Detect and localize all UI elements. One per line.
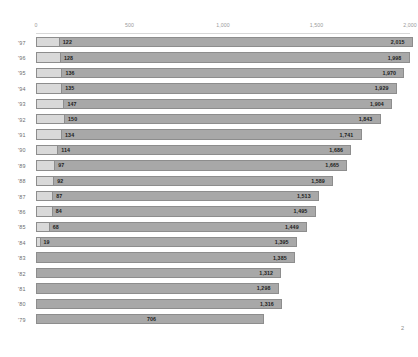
y-axis-category-label: '94: [18, 86, 26, 92]
bar-segment-light: [37, 207, 53, 215]
bar[interactable]: 921,589: [36, 176, 333, 186]
bar-total-value-label: 1,513: [297, 193, 311, 199]
chart-row: '941351,929: [0, 81, 418, 96]
y-axis-category-label: '90: [18, 147, 26, 153]
chart-row: '811,298: [0, 281, 418, 296]
bar-total-value-label: 1,449: [285, 224, 299, 230]
chart-row: '821,312: [0, 266, 418, 281]
bar-segment-light: [37, 177, 54, 185]
x-axis-tick-label: 0: [34, 22, 37, 28]
bar-total-value-label: 1,395: [275, 239, 289, 245]
bar[interactable]: 191,395: [36, 237, 297, 247]
bar-segment-value-label: 92: [57, 178, 63, 184]
y-axis-category-label: '83: [18, 255, 26, 261]
bar-inner-value-label: 706: [147, 316, 156, 322]
bar-total-value-label: 1,495: [294, 208, 308, 214]
bar[interactable]: 1141,686: [36, 145, 351, 155]
bar-segment-light: [37, 130, 62, 138]
bar-track: 971,665: [36, 160, 410, 170]
bar-total-value-label: 1,970: [382, 70, 396, 76]
bar-total-value-label: 1,298: [257, 285, 271, 291]
bar-segment-value-label: 97: [58, 162, 64, 168]
bar[interactable]: 706: [36, 314, 264, 324]
bar-chart: 05001,0001,5002,000 '971222,015'961281,9…: [0, 0, 418, 357]
x-axis-tick-label: 2,000: [403, 22, 417, 28]
y-axis-category-label: '88: [18, 178, 26, 184]
bar-track: 1281,998: [36, 52, 410, 62]
bar-total-value-label: 1,904: [370, 101, 384, 107]
bar[interactable]: 971,665: [36, 160, 347, 170]
bar-track: 706: [36, 314, 410, 324]
bar[interactable]: 1,385: [36, 252, 295, 262]
y-axis-category-label: '84: [18, 240, 26, 246]
chart-row: '86841,495: [0, 204, 418, 219]
y-axis-category-label: '79: [18, 317, 26, 323]
bar-total-value-label: 1,741: [340, 132, 354, 138]
bar-segment-value-label: 134: [65, 132, 74, 138]
bar-total-value-label: 1,998: [388, 55, 402, 61]
y-axis-category-label: '82: [18, 271, 26, 277]
bar[interactable]: 841,495: [36, 206, 316, 216]
bar-track: 871,513: [36, 191, 410, 201]
bar[interactable]: 1501,843: [36, 114, 381, 124]
bar-segment-light: [37, 192, 53, 200]
chart-row: '901141,686: [0, 143, 418, 158]
y-axis-category-label: '80: [18, 301, 26, 307]
bar[interactable]: 1,316: [36, 299, 282, 309]
bar[interactable]: 1361,970: [36, 68, 404, 78]
bar-total-value-label: 2,015: [391, 39, 405, 45]
chart-row: '88921,589: [0, 174, 418, 189]
bar-track: 1222,015: [36, 37, 410, 47]
bar-total-value-label: 1,665: [325, 162, 339, 168]
y-axis-category-label: '91: [18, 132, 26, 138]
y-axis-category-label: '85: [18, 224, 26, 230]
chart-row: '971222,015: [0, 35, 418, 50]
y-axis-category-label: '96: [18, 55, 26, 61]
bar[interactable]: 1341,741: [36, 129, 362, 139]
bar-track: 921,589: [36, 176, 410, 186]
chart-row: '79706: [0, 312, 418, 327]
bar[interactable]: 1,312: [36, 268, 281, 278]
bar-total-value-label: 1,589: [311, 178, 325, 184]
chart-row: '951361,970: [0, 66, 418, 81]
bar[interactable]: 1,298: [36, 283, 279, 293]
bar-track: 1,298: [36, 283, 410, 293]
bar[interactable]: 1281,998: [36, 52, 410, 62]
y-axis-category-label: '87: [18, 194, 26, 200]
bar[interactable]: 1351,929: [36, 83, 397, 93]
chart-row: '831,385: [0, 250, 418, 265]
bar-segment-value-label: 147: [67, 101, 76, 107]
bar-segment-value-label: 87: [56, 193, 62, 199]
y-axis-category-label: '89: [18, 163, 26, 169]
bar-segment-value-label: 135: [65, 85, 74, 91]
x-axis-tick-label: 1,500: [310, 22, 324, 28]
page-number: 2: [401, 325, 404, 331]
bar-segment-value-label: 150: [68, 116, 77, 122]
bar[interactable]: 871,513: [36, 191, 319, 201]
bar-segment-light: [37, 161, 55, 169]
bar-total-value-label: 1,316: [260, 301, 274, 307]
bar-track: 1141,686: [36, 145, 410, 155]
bar-track: 1341,741: [36, 129, 410, 139]
bar-segment-value-label: 19: [44, 239, 50, 245]
bar[interactable]: 1222,015: [36, 37, 413, 47]
bar-track: 1501,843: [36, 114, 410, 124]
bar-track: 1,312: [36, 268, 410, 278]
bar-segment-value-label: 136: [65, 70, 74, 76]
bar-track: 841,495: [36, 206, 410, 216]
chart-row: '961281,998: [0, 50, 418, 65]
bar-total-value-label: 1,929: [375, 85, 389, 91]
bar[interactable]: 1471,904: [36, 99, 392, 109]
bar-segment-value-label: 84: [56, 208, 62, 214]
y-axis-category-label: '93: [18, 101, 26, 107]
x-axis-rule: [36, 33, 410, 34]
chart-row: '911341,741: [0, 127, 418, 142]
bar-segment-value-label: 122: [63, 39, 72, 45]
bar[interactable]: 681,449: [36, 222, 307, 232]
y-axis-category-label: '81: [18, 286, 26, 292]
bar-total-value-label: 1,312: [259, 270, 273, 276]
bar-track: 1351,929: [36, 83, 410, 93]
chart-row: '931471,904: [0, 97, 418, 112]
bar-segment-value-label: 114: [61, 147, 70, 153]
chart-row: '921501,843: [0, 112, 418, 127]
